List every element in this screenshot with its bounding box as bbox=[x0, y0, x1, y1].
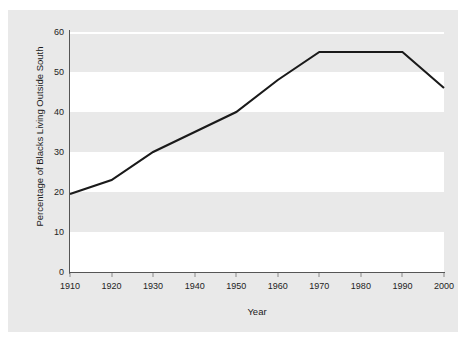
x-axis-ticks: 1910192019301940195019601970198019902000 bbox=[70, 273, 444, 297]
x-tick-label: 1990 bbox=[392, 281, 412, 291]
x-tick-mark bbox=[70, 273, 71, 277]
y-axis-line bbox=[69, 30, 70, 274]
y-tick-label: 20 bbox=[54, 187, 64, 197]
data-line-series bbox=[70, 32, 444, 272]
plot-area bbox=[70, 32, 444, 272]
x-tick-label: 1970 bbox=[309, 281, 329, 291]
chart-figure: 0102030405060 19101920193019401950196019… bbox=[8, 10, 458, 332]
x-tick-mark bbox=[111, 273, 112, 277]
y-tick-label: 10 bbox=[54, 227, 64, 237]
x-tick-mark bbox=[444, 273, 445, 277]
x-tick-label: 1940 bbox=[185, 281, 205, 291]
x-tick-mark bbox=[153, 273, 154, 277]
x-tick-label: 1980 bbox=[351, 281, 371, 291]
x-tick-mark bbox=[236, 273, 237, 277]
x-tick-label: 2000 bbox=[434, 281, 454, 291]
y-axis-label: Percentage of Blacks Living Outside Sout… bbox=[34, 22, 45, 252]
x-axis-label: Year bbox=[70, 306, 444, 317]
x-tick-mark bbox=[194, 273, 195, 277]
x-tick-mark bbox=[277, 273, 278, 277]
y-tick-label: 0 bbox=[59, 267, 64, 277]
y-tick-label: 30 bbox=[54, 147, 64, 157]
x-tick-label: 1930 bbox=[143, 281, 163, 291]
y-tick-label: 40 bbox=[54, 107, 64, 117]
y-tick-label: 50 bbox=[54, 67, 64, 77]
x-tick-mark bbox=[402, 273, 403, 277]
x-tick-label: 1920 bbox=[102, 281, 122, 291]
x-tick-label: 1910 bbox=[60, 281, 80, 291]
x-tick-mark bbox=[319, 273, 320, 277]
x-tick-label: 1960 bbox=[268, 281, 288, 291]
x-tick-mark bbox=[360, 273, 361, 277]
x-tick-label: 1950 bbox=[226, 281, 246, 291]
y-tick-label: 60 bbox=[54, 27, 64, 37]
